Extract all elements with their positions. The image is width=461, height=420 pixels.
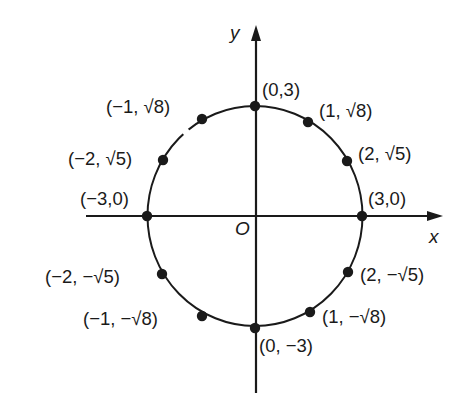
point-neg1-sqrt8 [197, 114, 207, 124]
label-3-0: (3,0) [368, 188, 406, 209]
origin-label: O [235, 218, 250, 239]
point-1-neg-sqrt8 [305, 307, 315, 317]
point-neg1-neg-sqrt8 [197, 311, 207, 321]
label-0-3: (0,3) [262, 79, 300, 100]
label-neg2-neg-sqrt5: (−2, −√5) [45, 266, 120, 287]
point-0-3 [250, 101, 260, 111]
x-axis-arrow-icon [427, 211, 443, 221]
label-neg1-sqrt8: (−1, √8) [106, 96, 170, 117]
point-3-0 [357, 211, 367, 221]
label-neg2-sqrt5: (−2, √5) [68, 148, 132, 169]
point-2-neg-sqrt5 [343, 267, 353, 277]
label-1-neg-sqrt8: (1, −√8) [322, 306, 386, 327]
circle-diagram: y x O (0,3) (1, √8) (2, √5) (3,0) (2, −√… [0, 0, 461, 420]
label-2-sqrt5: (2, √5) [358, 143, 411, 164]
point-neg2-sqrt5 [158, 155, 168, 165]
y-axis-arrow-icon [251, 25, 261, 41]
y-axis-label: y [228, 22, 241, 43]
point-1-sqrt8 [303, 117, 313, 127]
label-neg1-neg-sqrt8: (−1, −√8) [83, 308, 158, 329]
point-neg3-0 [142, 211, 152, 221]
label-neg3-0: (−3,0) [80, 188, 129, 209]
label-0-neg3: (0, −3) [259, 335, 313, 356]
point-neg2-neg-sqrt5 [157, 269, 167, 279]
point-2-sqrt5 [342, 156, 352, 166]
label-2-neg-sqrt5: (2, −√5) [360, 264, 424, 285]
point-0-neg3 [250, 323, 260, 333]
x-axis-label: x [428, 226, 440, 247]
label-1-sqrt8: (1, √8) [319, 100, 372, 121]
